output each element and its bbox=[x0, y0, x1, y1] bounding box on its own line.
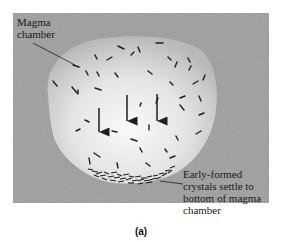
figure-caption: (a) bbox=[135, 226, 147, 237]
magma-chamber-figure: Magma chamber Early-formed crystals sett… bbox=[0, 0, 282, 242]
diagram-canvas: Magma chamber Early-formed crystals sett… bbox=[0, 0, 282, 242]
magma-chamber-label: Magma chamber bbox=[17, 16, 55, 40]
